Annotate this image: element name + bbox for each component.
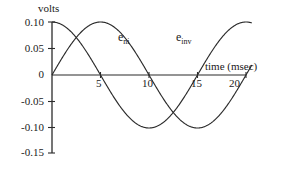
y-tick-label-4: -0.10 [8, 122, 44, 133]
y-tick-label-0: 0.10 [8, 17, 44, 28]
y-tick-label-2: 0 [8, 69, 44, 80]
y-tick-label-1: 0.05 [8, 43, 44, 54]
curve-label-e-inv: einv [176, 31, 192, 46]
x-axis-title: time (msec) [205, 61, 257, 72]
graph-figure: volts time (msec) 0.10 0.05 0 -0.05 -0.1… [0, 0, 282, 174]
y-axis-title: volts [38, 3, 59, 14]
x-tick-label-2: 15 [191, 78, 202, 89]
y-tick-label-5: -0.15 [8, 147, 44, 158]
x-tick-label-3: 20 [229, 78, 240, 89]
curve-label-e-inv-sub: inv [181, 37, 191, 46]
y-tick-label-3: -0.05 [8, 96, 44, 107]
x-tick-label-1: 10 [142, 78, 153, 89]
curve-label-e-ni-sub: ni [123, 37, 129, 46]
x-tick-label-0: 5 [96, 78, 102, 89]
curve-label-e-ni: eni [118, 31, 130, 46]
